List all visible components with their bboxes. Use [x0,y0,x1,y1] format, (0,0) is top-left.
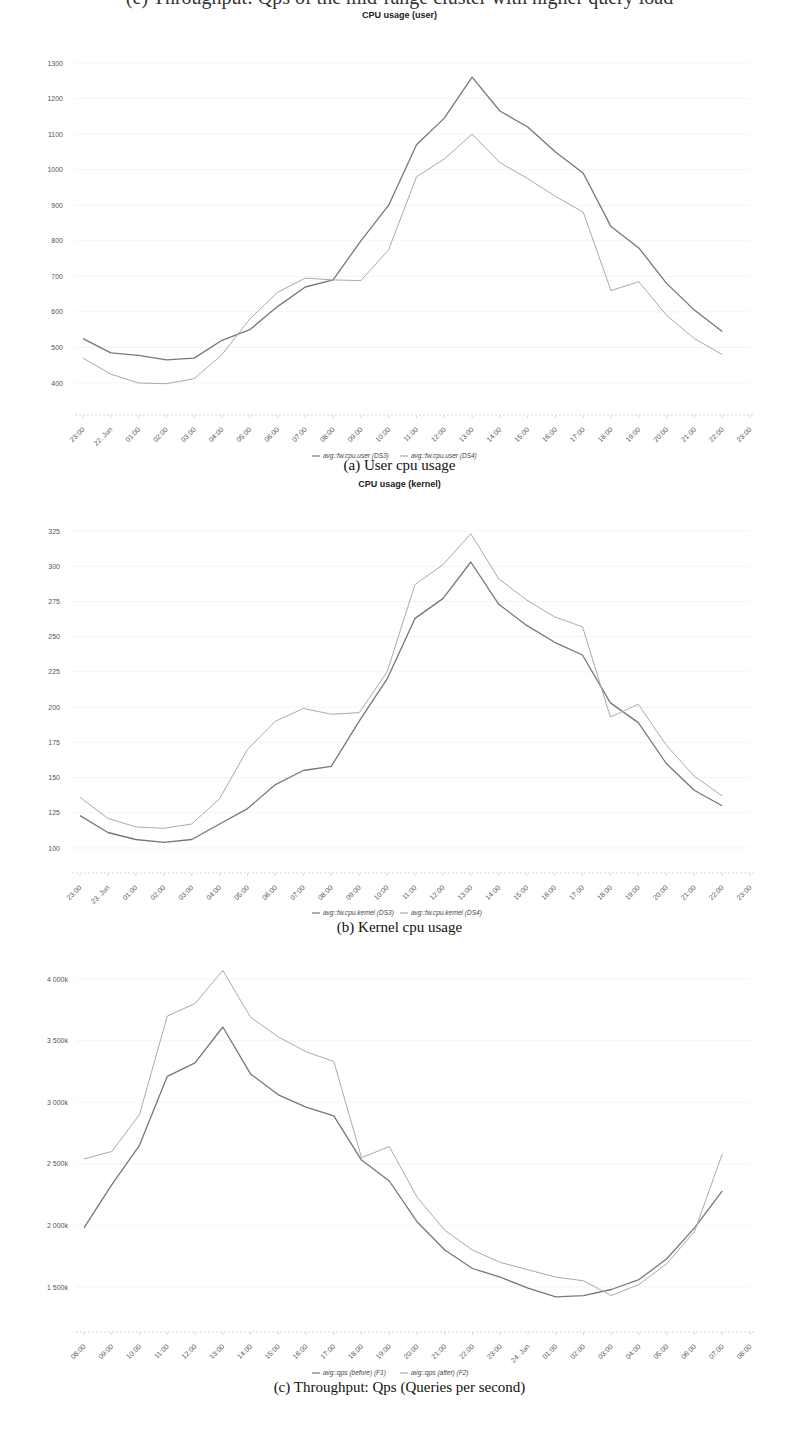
chart-caption: (c) Throughput: Qps (Queries per second) [0,1379,799,1396]
x-tick-label: 04:00 [624,1343,641,1360]
y-tick-label: 1 500k [47,1284,69,1291]
x-tick-label: 15:00 [264,1343,281,1360]
x-tick-label: 07:00 [708,1343,725,1360]
x-tick-label: 01:00 [541,1343,558,1360]
x-tick-label: 11:00 [153,1343,170,1360]
x-tick-label: 08:00 [69,1343,86,1360]
x-tick-label: 12:00 [180,1343,197,1360]
x-tick-label: 16:00 [291,1343,308,1360]
x-tick-label: 24. Jun [510,1343,531,1364]
x-tick-label: 14:00 [236,1343,253,1360]
x-tick-label: 23:00 [486,1343,503,1360]
legend-entry: avg::qps (before) (F1) [323,1369,386,1377]
x-tick-label: 08:00 [735,1343,752,1360]
x-tick-label: 03:00 [597,1343,614,1360]
x-tick-label: 20:00 [402,1343,419,1360]
x-tick-label: 18:00 [347,1343,364,1360]
y-tick-label: 4 000k [47,976,69,983]
y-tick-label: 3 000k [47,1099,69,1106]
x-tick-label: 05:00 [652,1343,669,1360]
series-line-1 [84,1027,722,1297]
y-tick-label: 2 000k [47,1222,69,1229]
x-tick-label: 21:00 [430,1343,447,1360]
y-tick-label: 2 500k [47,1160,69,1167]
series-line-2 [84,970,722,1295]
x-tick-label: 17:00 [319,1343,336,1360]
qps-chart: 1 500k2 000k2 500k3 000k3 500k4 000k08:0… [0,0,799,1436]
qps-plot: 1 500k2 000k2 500k3 000k3 500k4 000k08:0… [0,0,799,1436]
x-tick-label: 13:00 [208,1343,225,1360]
x-tick-label: 02:00 [569,1343,586,1360]
x-tick-label: 22:00 [458,1343,475,1360]
x-tick-label: 09:00 [97,1343,114,1360]
legend-entry: avg::qps (after) (F2) [411,1369,468,1377]
x-tick-label: 10:00 [125,1343,142,1360]
x-tick-label: 06:00 [680,1343,697,1360]
x-tick-label: 19:00 [375,1343,392,1360]
y-tick-label: 3 500k [47,1037,69,1044]
